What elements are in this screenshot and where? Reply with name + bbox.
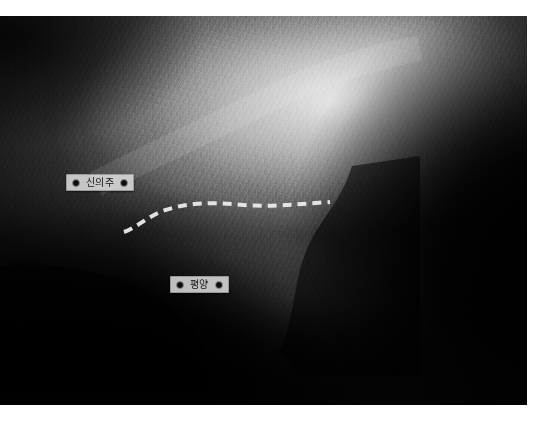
city-label-text: 평양 <box>190 279 209 290</box>
dot-marker-icon <box>215 281 223 289</box>
city-label-text: 신의주 <box>86 177 114 188</box>
city-label-pyongyang[interactable]: 평양 <box>170 276 229 293</box>
dot-marker-icon <box>120 179 128 187</box>
map-vector-overlay <box>0 16 527 405</box>
map-page: 신의주 평양 <box>0 0 533 435</box>
coastline-east-shadow <box>280 156 420 376</box>
dot-marker-icon <box>176 281 184 289</box>
terrain-map-plate: 신의주 평양 <box>0 16 527 405</box>
dot-marker-icon <box>72 179 80 187</box>
dashed-route-line <box>124 202 330 232</box>
city-label-sinuiju[interactable]: 신의주 <box>66 174 134 191</box>
